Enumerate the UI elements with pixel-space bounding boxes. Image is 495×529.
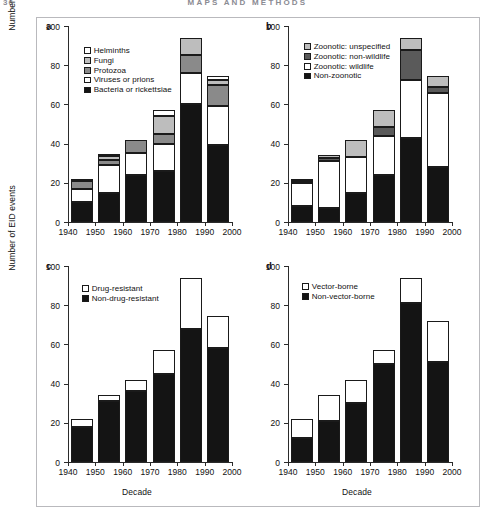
- bar-1940: [291, 419, 313, 462]
- y-tick: 20: [64, 183, 68, 184]
- bar-segment: [318, 155, 340, 158]
- bar-1960: [125, 140, 147, 222]
- x-tick: [123, 222, 124, 226]
- x-tick-label: 1990: [415, 467, 434, 477]
- legend-label: Zoonotic: unspecified: [314, 42, 391, 51]
- panel-d: d Decade 0204060801001940195019601970198…: [258, 262, 456, 470]
- bar-segment: [373, 350, 395, 364]
- legend-item: Zoonotic: wildlife: [304, 62, 390, 71]
- x-tick: [123, 462, 124, 466]
- bar-segment: [291, 181, 313, 183]
- x-tick: [68, 222, 69, 226]
- x-tick-label: 1940: [279, 227, 298, 237]
- bar-segment: [125, 391, 147, 462]
- bar-segment: [373, 110, 395, 127]
- bar-segment: [98, 165, 120, 192]
- bar-segment: [291, 419, 313, 439]
- x-tick-label: 1990: [195, 227, 214, 237]
- legend-item: Protozoa: [84, 66, 172, 75]
- bar-segment: [400, 138, 422, 222]
- x-tick: [343, 462, 344, 466]
- legend-label: Non-zoonotic: [314, 71, 362, 80]
- legend-item: Zoonotic: non-wildlife: [304, 52, 390, 61]
- x-tick-label: 2000: [443, 227, 462, 237]
- bar-segment: [71, 181, 93, 189]
- panel-c-ylabel: Number of EID events: [7, 158, 17, 298]
- bar-segment: [71, 419, 93, 427]
- panel-d-legend: Vector-borneNon-vector-borne: [302, 282, 375, 302]
- legend-item: Zoonotic: unspecified: [304, 42, 390, 51]
- legend-item: Helminths: [84, 46, 172, 55]
- bar-segment: [291, 206, 313, 222]
- bar-segment: [71, 179, 93, 181]
- figure-page: 36 MAPS AND METHODS a Number of EID even…: [0, 0, 495, 529]
- x-tick-label: 1980: [388, 227, 407, 237]
- bar-1990: [427, 321, 449, 462]
- y-tick: 60: [284, 104, 288, 105]
- panel-a: a Number of EID events 02040608010019401…: [38, 22, 236, 230]
- x-tick: [95, 462, 96, 466]
- x-tick: [425, 462, 426, 466]
- legend-item: Non-zoonotic: [304, 71, 390, 80]
- bar-segment: [373, 364, 395, 462]
- bar-segment: [345, 380, 367, 404]
- x-tick: [95, 222, 96, 226]
- y-tick-label: 0: [55, 218, 60, 228]
- bar-segment: [98, 156, 120, 160]
- panel-c-plot: c Number of EID events Decade 0204060801…: [38, 262, 236, 470]
- bar-segment: [207, 85, 229, 107]
- bar-segment: [153, 110, 175, 116]
- y-tick-label: 60: [51, 100, 60, 110]
- legend-swatch: [84, 47, 91, 54]
- x-tick-label: 1960: [333, 227, 352, 237]
- x-tick-label: 1950: [306, 227, 325, 237]
- bar-1980: [180, 38, 202, 222]
- x-tick-label: 1950: [86, 467, 105, 477]
- legend-swatch: [302, 293, 309, 300]
- y-tick-label: 60: [271, 100, 280, 110]
- x-tick-label: 1980: [388, 467, 407, 477]
- y-tick: 40: [284, 384, 288, 385]
- x-tick: [397, 222, 398, 226]
- bar-segment: [180, 278, 202, 329]
- bar-segment: [373, 127, 395, 136]
- bar-segment: [180, 55, 202, 73]
- x-tick-label: 2000: [223, 227, 242, 237]
- panel-b-legend: Zoonotic: unspecifiedZoonotic: non-wildl…: [304, 42, 390, 81]
- legend-item: Non-vector-borne: [302, 292, 375, 301]
- bar-segment: [318, 208, 340, 222]
- x-tick: [205, 462, 206, 466]
- y-tick-label: 100: [46, 22, 60, 32]
- y-tick-label: 0: [275, 458, 280, 468]
- y-axis-line: [288, 266, 289, 462]
- legend-swatch: [82, 285, 89, 292]
- bar-1980: [400, 278, 422, 462]
- x-tick: [343, 222, 344, 226]
- legend-label: Helminths: [94, 46, 130, 55]
- bar-segment: [345, 157, 367, 192]
- bar-segment: [153, 374, 175, 462]
- bar-1980: [400, 38, 422, 222]
- y-tick: 20: [284, 183, 288, 184]
- legend-swatch: [304, 73, 311, 80]
- x-tick-label: 1960: [113, 227, 132, 237]
- bar-segment: [427, 93, 449, 167]
- panel-c: c Number of EID events Decade 0204060801…: [38, 262, 236, 470]
- x-tick: [452, 462, 453, 466]
- bar-segment: [291, 183, 313, 207]
- legend-item: Fungi: [84, 56, 172, 65]
- bar-segment: [180, 38, 202, 56]
- bar-segment: [98, 401, 120, 462]
- legend-swatch: [302, 283, 309, 290]
- x-tick: [370, 462, 371, 466]
- bar-segment: [427, 167, 449, 222]
- bar-1970: [373, 110, 395, 222]
- bar-1990: [427, 76, 449, 222]
- bar-segment: [153, 144, 175, 171]
- bar-segment: [373, 136, 395, 175]
- x-tick-label: 1970: [361, 467, 380, 477]
- legend-swatch: [84, 67, 91, 74]
- x-tick-label: 1990: [415, 227, 434, 237]
- bar-segment: [400, 278, 422, 303]
- x-tick: [150, 222, 151, 226]
